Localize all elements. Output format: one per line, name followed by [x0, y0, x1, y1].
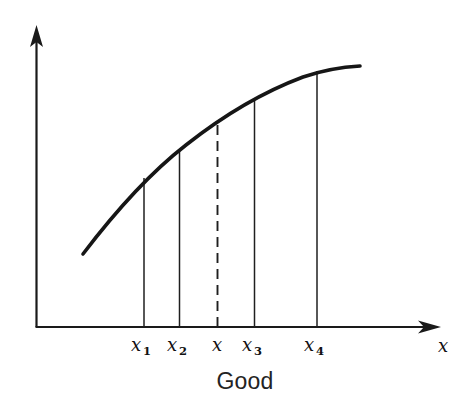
- tick-label-x1-sub: 1: [143, 344, 151, 358]
- x-axis-name-label: x: [438, 335, 448, 356]
- figure-container: x 1 x 2 x x 3 x 4 x Good: [0, 0, 474, 405]
- tick-label-x3-base: x: [242, 334, 252, 355]
- tick-label-x-base: x: [212, 334, 222, 355]
- tick-label-x4-sub: 4: [316, 344, 324, 358]
- figure-caption: Good: [216, 368, 273, 394]
- tick-label-x: x: [212, 334, 222, 355]
- tick-label-x4-base: x: [304, 334, 314, 355]
- economics-curve-figure: x 1 x 2 x x 3 x 4 x Good: [0, 0, 474, 405]
- tick-label-x1-base: x: [131, 334, 141, 355]
- tick-label-x3-sub: 3: [254, 344, 262, 358]
- figure-background: [0, 0, 474, 405]
- tick-label-x2-base: x: [167, 334, 177, 355]
- tick-label-x2-sub: 2: [179, 344, 187, 358]
